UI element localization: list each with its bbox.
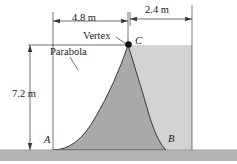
vertex-point-marker <box>125 41 132 48</box>
parabola-dam-figure: 4.8 m 2.4 m 7.2 m Vertex Parabola A B C <box>0 0 237 164</box>
arrowhead-2-4-left <box>130 17 137 22</box>
dimension-label-7-2m: 7.2 m <box>12 89 36 100</box>
dimension-label-2-4m: 2.4 m <box>145 5 169 16</box>
annotation-label-vertex: Vertex <box>83 31 110 42</box>
arrowhead-7-2-top <box>28 45 33 52</box>
arrowhead-7-2-bottom <box>28 143 33 150</box>
figure-canvas <box>0 0 237 164</box>
annotation-label-parabola: Parabola <box>50 47 87 58</box>
arrowhead-4-8-right <box>121 19 128 24</box>
point-label-b: B <box>168 134 174 145</box>
ground-strip <box>0 150 237 161</box>
dimension-label-4-8m: 4.8 m <box>72 13 96 24</box>
leader-line-vertex <box>116 37 126 44</box>
point-label-a: A <box>44 135 50 146</box>
arrowhead-4-8-left <box>53 19 60 24</box>
arrowhead-2-4-right <box>185 17 192 22</box>
leader-line-parabola <box>70 57 78 70</box>
point-label-c: C <box>135 36 142 47</box>
